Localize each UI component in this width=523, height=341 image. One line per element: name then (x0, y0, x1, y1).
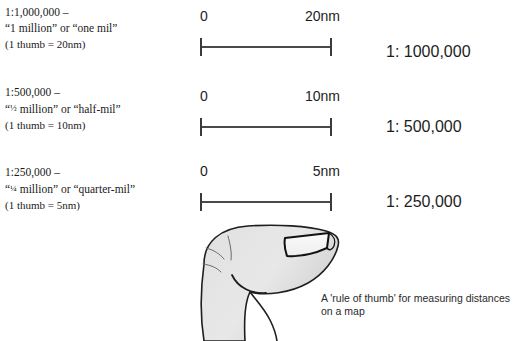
figure-caption: A 'rule of thumb' for measuring distance… (321, 292, 517, 318)
scale-bar-start-label: 0 (200, 163, 208, 179)
thumb-illustration (186, 212, 356, 341)
scale-bar-line (201, 201, 331, 203)
scale-ratio-heading: 1:1,000,000 – (5, 4, 190, 20)
scale-bar-group-1: 0 20nm (200, 8, 340, 68)
scale-ratio-heading: 1:250,000 – (5, 164, 190, 180)
scale-bar-group-2: 0 10nm (200, 88, 340, 148)
scale-bar-tick-end (330, 118, 332, 136)
scale-ratio-label-3: 1: 250,000 (386, 193, 462, 211)
nickname-fraction: ¼ (10, 183, 17, 193)
scale-bar-rule-3 (200, 193, 332, 211)
scale-bar-line (201, 126, 331, 128)
scale-bar-end-label: 10nm (305, 88, 340, 104)
scale-ratio-label-2: 1: 500,000 (386, 118, 462, 136)
scale-bar-tick-end (330, 38, 332, 56)
scale-bar-tick-end (330, 193, 332, 211)
scale-bar-line (201, 46, 331, 48)
scale-ratio-label-1: 1: 1000,000 (386, 43, 471, 61)
scale-description-2: 1:500,000 – “½ million” or “half-mil” (1… (5, 84, 190, 133)
scale-description-3: 1:250,000 – “¼ million” or “quarter-mil”… (5, 164, 190, 213)
scale-bar-labels-3: 0 5nm (200, 163, 340, 185)
scale-bar-labels-2: 0 10nm (200, 88, 340, 110)
scale-bar-rule-2 (200, 118, 332, 136)
scale-bar-end-label: 20nm (305, 8, 340, 24)
scale-thumb-note: (1 thumb = 20nm) (5, 36, 190, 52)
scale-bar-rule-1 (200, 38, 332, 56)
nickname-fraction: ½ (10, 103, 17, 113)
scale-reference-figure: 1:1,000,000 – “1 million” or “one mil” (… (0, 0, 523, 341)
thumb-base-edge (250, 292, 277, 341)
scale-ratio-heading: 1:500,000 – (5, 84, 190, 100)
nickname-rest: million” or “half-mil” (17, 103, 121, 115)
scale-description-1: 1:1,000,000 – “1 million” or “one mil” (… (5, 4, 190, 52)
scale-bar-tick-start (200, 118, 202, 136)
scale-bar-start-label: 0 (200, 8, 208, 24)
scale-nickname: “½ million” or “half-mil” (5, 100, 190, 117)
scale-thumb-note: (1 thumb = 5nm) (5, 197, 190, 213)
scale-bar-labels-1: 0 20nm (200, 8, 340, 30)
scale-thumb-note: (1 thumb = 10nm) (5, 117, 190, 133)
scale-nickname: “1 million” or “one mil” (5, 20, 190, 36)
scale-bar-tick-start (200, 193, 202, 211)
nickname-rest: million” or “quarter-mil” (17, 183, 135, 195)
scale-bar-start-label: 0 (200, 88, 208, 104)
scale-bar-tick-start (200, 38, 202, 56)
scale-nickname: “¼ million” or “quarter-mil” (5, 180, 190, 197)
scale-bar-end-label: 5nm (313, 163, 340, 179)
